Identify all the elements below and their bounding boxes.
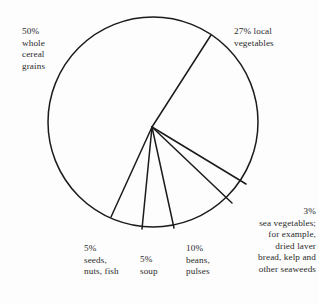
pie-spoke-sea-beans [152,127,232,203]
slice-label-soup: 5% soup [140,254,180,277]
pie-spoke-local-sea [152,127,246,184]
pie-chart-figure: 50% whole cereal grains 27% local vegeta… [0,0,319,304]
slice-label-beans-pulses: 10% beans, pulses [186,243,232,278]
slice-label-whole-cereal-grains: 50% whole cereal grains [22,26,92,72]
pie-spoke-cereal-local [152,35,211,127]
pie-spoke-soup-seeds [142,127,152,229]
pie-spoke-seeds-cereal [111,127,152,217]
slice-label-seeds-nuts-fish: 5% seeds, nuts, fish [84,243,144,278]
pie-spoke-beans-soup [152,127,174,228]
slice-label-local-vegetables: 27% local vegetables [234,26,318,49]
